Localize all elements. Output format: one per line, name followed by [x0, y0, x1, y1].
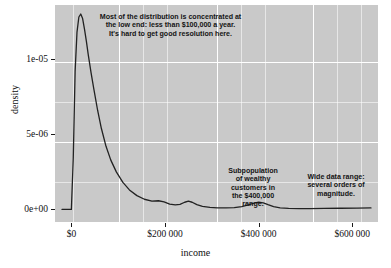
x-tick-mark [165, 223, 166, 227]
annotation-low-end: Most of the distribution is concentrated… [63, 13, 278, 38]
x-tick-label: $600 000 [334, 229, 370, 239]
y-tick-label: 1e-05 [26, 54, 48, 64]
x-axis-title: income [0, 247, 391, 258]
y-tick-mark [51, 209, 55, 210]
x-tick-label: $400 000 [241, 229, 277, 239]
x-tick-label: $0 [67, 229, 77, 239]
x-tick-mark [259, 223, 260, 227]
y-tick-label: 5e-06 [26, 129, 48, 139]
annotation-wide-range: Wide data range: several orders of magni… [296, 173, 376, 198]
annotation-subpopulation: Subpopulation of wealthy customers in th… [214, 167, 292, 209]
y-tick-mark [51, 59, 55, 60]
x-tick-mark [352, 223, 353, 227]
x-tick-label: $200 000 [147, 229, 183, 239]
y-tick-mark [51, 134, 55, 135]
y-axis-title: density [9, 50, 20, 150]
chart-figure: Most of the distribution is concentrated… [0, 0, 391, 268]
x-tick-mark [71, 223, 72, 227]
y-tick-label: 0e+00 [24, 204, 48, 214]
